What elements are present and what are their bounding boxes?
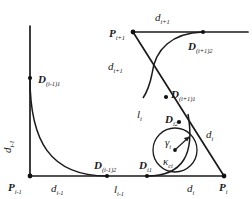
label-d-i-1: Di1	[139, 156, 152, 172]
label-l-i: li	[137, 105, 142, 121]
label-d-i-plus-1-1: D(i+1)1	[171, 85, 195, 101]
label-d-i-minus-1-horizontal: di-1	[51, 179, 63, 195]
label-l-i-minus-1: li-1	[114, 180, 124, 196]
label-d-i-horizontal: di	[187, 179, 194, 195]
label-d-i-plus-1-diagonal: di+1	[108, 57, 123, 73]
point-marker-d-ip1-1	[164, 95, 168, 99]
label-p-i: Pi	[219, 178, 227, 194]
label-gamma-i: γi	[165, 133, 171, 149]
label-d-i-minus-1-vertical: di-1	[0, 141, 14, 153]
geometric-diagram-svg	[0, 0, 252, 199]
blend-curve-top-tail	[143, 74, 152, 98]
label-p-i-plus-1: Pi+1	[109, 24, 125, 40]
label-d-i-plus-1-2: D(i+1)2	[188, 37, 212, 53]
label-d-i-plus-1-horizontal: di+1	[155, 8, 170, 24]
vertex-marker-p-im1	[28, 174, 33, 179]
label-d-i-2: Di2	[165, 110, 178, 126]
point-marker-d-im1-1	[28, 76, 32, 80]
label-d-i-diagonal: di	[206, 125, 213, 141]
point-marker-d-im1-2	[105, 174, 109, 178]
label-d-i-minus-1-2: D(i-1)2	[94, 156, 116, 172]
point-marker-d-ip1-2	[201, 30, 205, 34]
figure-container: Pi-1 Pi Pi+1 D(i-1)1 D(i-1)2 Di1 Di2 D(i…	[0, 0, 252, 199]
point-marker-d-i1	[145, 174, 149, 178]
label-d-i-minus-1-1: D(i-1)1	[38, 70, 60, 86]
label-kappa-ci: κci	[163, 152, 173, 168]
vertex-marker-p-ip1	[131, 30, 136, 35]
label-p-i-minus-1: Pi-1	[8, 178, 22, 194]
